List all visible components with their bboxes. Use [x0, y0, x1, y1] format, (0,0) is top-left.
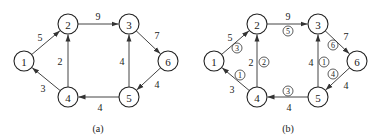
edge-6-to-5: 4 [137, 68, 161, 90]
node-6: 6 [158, 51, 178, 71]
edge-weight-label: 7 [155, 30, 160, 41]
edge-5-to-3: 4 [120, 35, 130, 88]
node-2: 2 [58, 14, 78, 34]
node-label: 1 [211, 56, 217, 68]
edge-weight-label: 4 [309, 57, 314, 68]
edge-weight-label: 2 [249, 57, 254, 68]
node-label: 6 [165, 56, 171, 68]
graph-diagram: 59744324123456 5395764443312241123456 (a… [0, 0, 384, 139]
node-1: 1 [14, 51, 34, 71]
edge-weight-label: 4 [287, 102, 292, 113]
node-label: 5 [126, 92, 132, 104]
node-3: 3 [308, 14, 328, 34]
svg-text:2: 2 [262, 58, 266, 67]
node-label: 6 [354, 56, 360, 68]
panel-a: 59744324123456 [14, 11, 178, 113]
svg-text:3: 3 [286, 87, 290, 96]
edge-4-to-2: 22 [249, 35, 270, 88]
node-5: 5 [308, 87, 328, 107]
node-2: 2 [247, 14, 267, 34]
svg-text:3: 3 [235, 44, 239, 53]
edge-weight-label: 9 [96, 11, 101, 22]
node-6: 6 [347, 51, 367, 71]
edge-weight-label: 4 [344, 80, 349, 91]
edge-weight-label: 3 [230, 84, 235, 95]
edge-5-to-4: 4 [79, 97, 120, 113]
svg-text:5: 5 [286, 27, 290, 36]
edge-3-to-6: 7 [136, 30, 160, 54]
node-label: 5 [315, 92, 321, 104]
edge-4-to-1: 31 [222, 68, 249, 95]
svg-text:6: 6 [331, 41, 335, 50]
edge-5-to-3: 41 [309, 35, 330, 88]
node-4: 4 [247, 87, 267, 107]
caption-b: (b) [282, 123, 294, 135]
edge-weight-label: 5 [38, 32, 43, 43]
node-label: 1 [21, 56, 27, 68]
edge-1-to-2: 5 [32, 31, 60, 55]
node-3: 3 [119, 14, 139, 34]
edge-weight-label: 9 [286, 11, 291, 22]
node-label: 4 [65, 92, 71, 104]
node-5: 5 [119, 87, 139, 107]
edge-order-badge: 1 [319, 57, 329, 67]
node-label: 3 [315, 19, 321, 31]
edge-4-to-1: 3 [32, 68, 60, 94]
edge-weight-label: 4 [155, 79, 160, 90]
svg-text:4: 4 [331, 70, 335, 79]
edge-weight-label: 4 [98, 102, 103, 113]
edge-weight-label: 3 [41, 83, 46, 94]
svg-text:1: 1 [238, 71, 242, 80]
edge-order-badge: 3 [232, 43, 242, 53]
node-label: 2 [65, 19, 71, 31]
edge-order-badge: 2 [259, 57, 269, 67]
edge-order-badge: 3 [283, 86, 293, 96]
node-label: 4 [254, 92, 260, 104]
edge-order-badge: 1 [235, 70, 245, 80]
edge-order-badge: 6 [328, 40, 338, 50]
edge-weight-label: 7 [344, 31, 349, 42]
arrow-icon [222, 68, 249, 91]
edge-2-to-3: 95 [267, 11, 308, 37]
node-1: 1 [204, 51, 224, 71]
edge-weight-label: 4 [120, 56, 125, 67]
edge-4-to-2: 2 [58, 35, 69, 88]
panel-b: 5395764443312241123456 [204, 11, 367, 113]
node-label: 3 [126, 19, 132, 31]
svg-text:1: 1 [322, 58, 326, 67]
edge-order-badge: 5 [283, 26, 293, 36]
node-label: 2 [254, 19, 260, 31]
edge-6-to-5: 44 [326, 68, 350, 91]
arrow-icon [32, 31, 60, 55]
arrow-icon [32, 68, 60, 91]
edge-weight-label: 2 [58, 56, 63, 67]
edge-2-to-3: 9 [78, 11, 119, 25]
edge-3-to-6: 76 [325, 31, 349, 54]
caption-a: (a) [92, 123, 103, 135]
edge-5-to-4: 43 [268, 86, 309, 113]
edge-order-badge: 4 [328, 69, 338, 79]
node-4: 4 [58, 87, 78, 107]
edge-1-to-2: 53 [222, 31, 249, 55]
edge-weight-label: 5 [228, 32, 233, 43]
